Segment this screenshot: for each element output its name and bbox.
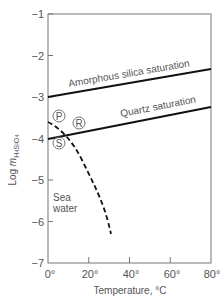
y-ticks [48, 14, 53, 222]
y-tick-label: −5 [31, 174, 44, 186]
label-s: S [53, 137, 65, 149]
y-axis-title: Log mH4SiO4 [7, 134, 20, 186]
x-tick-label: 80° [204, 268, 221, 280]
x-tick-label: 0° [45, 268, 56, 280]
y-tick-label: −6 [31, 216, 44, 228]
chart: −1 −2 −3 −4 −5 −6 −7 0° 20° 40° 60° 80° … [0, 0, 224, 300]
y-tick-label: −3 [31, 91, 44, 103]
x-tick-label: 40° [123, 268, 140, 280]
svg-text:P: P [56, 111, 63, 122]
label-r: R [73, 117, 85, 129]
x-tick-labels: 0° 20° 40° 60° 80° [45, 268, 221, 280]
quartz-label: Quartz saturation [119, 94, 196, 119]
x-axis-title: Temperature, °C [94, 285, 167, 296]
sea-water-label-line2: water [52, 203, 78, 214]
x-ticks [89, 257, 171, 263]
sea-water-label-line1: Sea [53, 192, 71, 203]
x-tick-label: 20° [82, 268, 99, 280]
amorphous-silica-label: Amorphous silica saturation [67, 57, 190, 89]
plot-frame [48, 14, 211, 263]
svg-text:S: S [56, 138, 63, 149]
y-tick-label: −4 [31, 133, 44, 145]
y-tick-label: −2 [31, 50, 44, 62]
label-p: P [53, 110, 65, 122]
y-tick-labels: −1 −2 −3 −4 −5 −6 −7 [31, 8, 44, 269]
svg-text:R: R [75, 118, 82, 129]
y-tick-label: −1 [31, 8, 44, 20]
x-tick-label: 60° [164, 268, 181, 280]
y-tick-label: −7 [31, 257, 44, 269]
